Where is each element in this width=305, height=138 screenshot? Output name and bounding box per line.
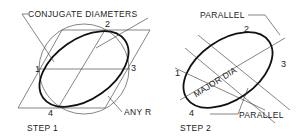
point-1-label-step2: 1 xyxy=(175,68,180,78)
point-3-label: 3 xyxy=(131,63,136,73)
ellipse-construction-diagram: CONJUGATE DIAMETERS 2 1 3 4 ANY R STEP 1… xyxy=(0,0,305,138)
step2-caption: STEP 2 xyxy=(180,123,211,133)
parallel-top-label: PARALLEL xyxy=(200,10,245,20)
point-1-label: 1 xyxy=(35,64,40,74)
point-3-label-step2: 3 xyxy=(281,59,286,69)
point-4-label-step2: 4 xyxy=(189,108,194,118)
point-2-label-step2: 2 xyxy=(244,24,249,34)
conjugate-diameters-label: CONJUGATE DIAMETERS xyxy=(28,9,137,19)
major-dia-label: MAJOR DIA xyxy=(192,65,239,99)
parallel-bottom-label: PARALLEL xyxy=(239,110,284,120)
point-2-label: 2 xyxy=(105,19,110,29)
step1-caption: STEP 1 xyxy=(27,123,58,133)
point-4-label: 4 xyxy=(48,108,53,118)
any-r-label: ANY R xyxy=(124,107,151,117)
